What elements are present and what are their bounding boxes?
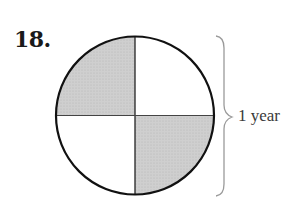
whole-label: 1 year [238, 106, 280, 126]
fraction-circle-diagram [0, 0, 307, 198]
curly-brace-icon [216, 36, 232, 196]
